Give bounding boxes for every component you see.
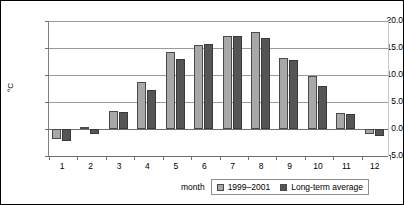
x-tick-label: 5 — [162, 161, 190, 171]
bar — [109, 111, 118, 129]
x-axis-tick-labels: 123456789101112 — [48, 156, 389, 176]
chart-figure: °C -5.00.05.010.015.020.0 12345678910111… — [0, 0, 404, 205]
x-tick-label: 3 — [105, 161, 133, 171]
bar — [308, 76, 317, 129]
bar — [375, 129, 384, 136]
bar-group — [248, 21, 276, 156]
x-tick-label: 6 — [190, 161, 218, 171]
bar — [346, 114, 355, 129]
x-tick-label: 1 — [48, 161, 76, 171]
legend-swatch — [280, 184, 287, 191]
bar — [62, 129, 71, 141]
bar-group — [333, 21, 361, 156]
bar — [137, 82, 146, 129]
bar — [318, 86, 327, 129]
bar — [52, 129, 61, 139]
y-axis-title: °C — [6, 81, 15, 95]
x-tick-label: 8 — [247, 161, 275, 171]
bar-group — [163, 21, 191, 156]
legend-label: Long-term average — [291, 182, 363, 192]
x-tick-label: 7 — [219, 161, 247, 171]
bar — [80, 127, 89, 129]
bar-group — [276, 21, 304, 156]
legend-entry: 1999–2001 — [217, 182, 271, 192]
bar — [194, 45, 203, 129]
bar-group — [106, 21, 134, 156]
legend: 1999–2001Long-term average — [211, 179, 369, 195]
plot-area — [48, 21, 389, 156]
bar — [365, 129, 374, 134]
x-tick-label: 9 — [276, 161, 304, 171]
x-tick-label: 4 — [133, 161, 161, 171]
bar — [289, 60, 298, 129]
bar — [279, 58, 288, 129]
legend-label: 1999–2001 — [228, 182, 271, 192]
bar — [166, 52, 175, 129]
legend-swatch — [217, 184, 224, 191]
bar — [204, 44, 213, 129]
x-tick-label: 12 — [361, 161, 389, 171]
x-axis-title: month — [181, 182, 205, 192]
bar-group — [49, 21, 77, 156]
legend-row: month 1999–2001Long-term average — [181, 179, 369, 195]
x-tick-label: 10 — [304, 161, 332, 171]
legend-entry: Long-term average — [280, 182, 363, 192]
bar — [261, 38, 270, 129]
bar-group — [305, 21, 333, 156]
bar — [336, 113, 345, 129]
bar — [233, 36, 242, 129]
bar-group — [362, 21, 390, 156]
bar-group — [191, 21, 219, 156]
x-tick-mark — [390, 156, 391, 160]
bar — [223, 36, 232, 129]
bar — [176, 59, 185, 129]
bar — [147, 90, 156, 129]
x-tick-label: 2 — [77, 161, 105, 171]
bar — [90, 129, 99, 134]
bar-group — [77, 21, 105, 156]
x-tick-label: 11 — [332, 161, 360, 171]
bar — [251, 32, 260, 129]
bar — [119, 112, 128, 129]
bar-group — [134, 21, 162, 156]
bar-group — [220, 21, 248, 156]
